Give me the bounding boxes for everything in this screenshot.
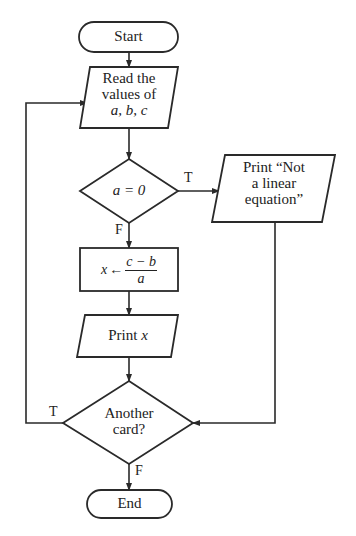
edge-label-cond-a-true: T [184,170,193,186]
edge-print-not-cond-card [193,222,275,423]
fraction: c − b a [125,255,157,286]
compute-var: x [101,262,107,278]
edge-label-cond-a-false: F [115,222,123,238]
edge-label-cond-card-false: F [135,463,143,479]
decision-another-card-label: Another card? [70,406,188,438]
end-label: End [87,496,172,512]
read-variables-label: a, b, c [82,103,176,119]
assign-arrow: ← [109,262,123,278]
compute-x-label: x ← c − b a [80,250,178,290]
fraction-denominator: a [138,271,145,286]
fraction-numerator: c − b [125,255,157,271]
print-not-linear-label: Print “Not a linear equation” [215,160,333,207]
edge-cond-card-true-loop [26,103,87,423]
edge-label-cond-card-true: T [49,404,58,420]
flowchart-canvas [0,0,356,536]
decision-a-zero-label: a = 0 [80,183,178,199]
read-label-group: Read the values of a, b, c [82,71,176,118]
print-var: x [141,327,148,343]
print-x-label: Print x [78,327,178,344]
print-word: Print [108,327,137,343]
start-label: Start [79,29,178,45]
read-label: Read the values of [82,71,176,103]
